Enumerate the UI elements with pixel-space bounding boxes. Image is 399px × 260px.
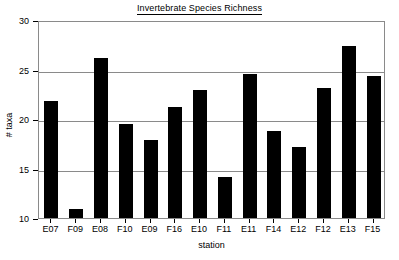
x-tick-mark bbox=[373, 219, 374, 223]
x-tick-mark bbox=[75, 219, 76, 223]
x-tick-mark bbox=[199, 219, 200, 223]
x-tick-label: F09 bbox=[67, 224, 83, 234]
x-tick-label: F12 bbox=[315, 224, 331, 234]
bar bbox=[69, 209, 83, 218]
x-tick-mark bbox=[100, 219, 101, 223]
y-tick-label: 30 bbox=[19, 16, 29, 26]
chart-title-text: Invertebrate Species Richness bbox=[137, 3, 262, 15]
x-tick-label: E09 bbox=[142, 224, 158, 234]
x-tick-label: E10 bbox=[191, 224, 207, 234]
x-tick-label: E08 bbox=[92, 224, 108, 234]
y-axis: # taxa 1015202530 bbox=[0, 0, 38, 260]
x-axis: station E07F09E08F10E09F16E10F11E11F14E1… bbox=[38, 219, 385, 260]
bar bbox=[218, 177, 232, 218]
bar bbox=[94, 58, 108, 218]
x-tick-label: E12 bbox=[290, 224, 306, 234]
x-tick-mark bbox=[125, 219, 126, 223]
bars-layer bbox=[39, 22, 384, 218]
x-tick-mark bbox=[249, 219, 250, 223]
x-tick-mark bbox=[150, 219, 151, 223]
x-tick-label: E11 bbox=[241, 224, 256, 234]
y-tick-label: 25 bbox=[19, 66, 29, 76]
x-tick-label: F15 bbox=[365, 224, 381, 234]
bar bbox=[292, 147, 306, 218]
bar bbox=[119, 124, 133, 218]
x-tick-mark bbox=[273, 219, 274, 223]
x-tick-mark bbox=[348, 219, 349, 223]
bar bbox=[168, 107, 182, 218]
bar bbox=[342, 46, 356, 218]
bar bbox=[193, 90, 207, 218]
x-tick-label: E07 bbox=[42, 224, 58, 234]
plot-area bbox=[38, 21, 385, 219]
x-tick-mark bbox=[224, 219, 225, 223]
x-tick-label: F10 bbox=[117, 224, 133, 234]
x-tick-label: F14 bbox=[266, 224, 282, 234]
y-tick-label: 15 bbox=[19, 165, 29, 175]
bar bbox=[317, 88, 331, 218]
bar bbox=[267, 131, 281, 218]
bar-chart-figure: Invertebrate Species Richness # taxa 101… bbox=[0, 0, 399, 260]
x-tick-mark bbox=[174, 219, 175, 223]
x-tick-label: F11 bbox=[216, 224, 231, 234]
x-tick-mark bbox=[298, 219, 299, 223]
chart-title: Invertebrate Species Richness bbox=[0, 3, 399, 13]
bar bbox=[243, 74, 257, 218]
bar bbox=[44, 101, 58, 218]
bar bbox=[144, 140, 158, 218]
x-tick-label: E13 bbox=[340, 224, 356, 234]
x-axis-label: station bbox=[38, 240, 385, 250]
y-axis-label: # taxa bbox=[4, 100, 14, 150]
x-tick-label: F16 bbox=[167, 224, 183, 234]
x-tick-mark bbox=[50, 219, 51, 223]
x-tick-mark bbox=[323, 219, 324, 223]
bar bbox=[367, 76, 381, 218]
y-tick-label: 10 bbox=[19, 214, 29, 224]
y-tick-label: 20 bbox=[19, 115, 29, 125]
